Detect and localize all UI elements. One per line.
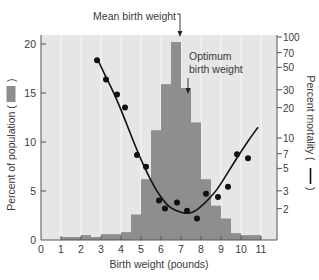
x-tick-label: 6 (158, 243, 164, 255)
mortality-point (94, 57, 100, 63)
x-tick-label: 3 (98, 243, 104, 255)
y-tick-label: 15 (24, 87, 36, 99)
mortality-point (215, 194, 221, 200)
x-tick-label: 7 (178, 243, 184, 255)
x-tick-label: 0 (38, 243, 44, 255)
mortality-point (122, 105, 128, 111)
y-tick-label: 10 (24, 136, 36, 148)
histogram-bar (161, 84, 171, 240)
y2-tick-label: 3 (283, 186, 289, 197)
y2-tick-label: 20 (283, 103, 295, 114)
mortality-point (203, 191, 209, 197)
mortality-point (225, 184, 231, 190)
x-tick-label: 10 (235, 243, 247, 255)
y2-tick-label: 100 (283, 32, 300, 43)
histogram-bar (131, 215, 141, 240)
mortality-point (156, 198, 162, 204)
x-tick-label: 5 (138, 243, 144, 255)
y2-tick-label: 50 (283, 62, 295, 73)
y-tick-label: 20 (24, 38, 36, 50)
mortality-point (134, 152, 140, 158)
mortality-point (245, 155, 251, 161)
histogram-bar (191, 122, 201, 240)
bar-legend-swatch-icon (7, 86, 16, 102)
mean-birth-weight-label: Mean birth weight (93, 10, 176, 22)
optimum-label-line1: Optimum (189, 50, 232, 62)
x-tick-label: 4 (118, 243, 124, 255)
x-tick-label: 2 (78, 243, 84, 255)
y-axis-label-close: ) (5, 79, 17, 83)
mortality-point (103, 76, 109, 82)
optimum-label-line2: birth weight (189, 63, 243, 75)
y2-axis-label-text: Percent mortality ( (305, 75, 317, 161)
histogram-bar (141, 179, 151, 240)
x-tick-label: 11 (256, 243, 267, 255)
mortality-point (174, 199, 180, 205)
x-tick-label: 1 (58, 243, 64, 255)
histogram-bar (221, 218, 231, 240)
y2-axis-label-close: ) (305, 187, 317, 191)
histogram-bar (211, 206, 221, 240)
y2-tick-label: 70 (283, 48, 295, 59)
mortality-point (162, 206, 168, 212)
mortality-point (194, 215, 200, 221)
histogram-bar (151, 130, 161, 240)
mortality-point (234, 151, 240, 157)
mortality-point (184, 208, 190, 214)
mortality-point (114, 91, 120, 97)
y2-tick-label: 30 (283, 85, 295, 96)
y2-tick-label: 5 (283, 163, 289, 174)
x-tick-label: 9 (218, 243, 224, 255)
x-axis-label: Birth weight (pounds) (109, 258, 208, 270)
mortality-point (143, 164, 149, 170)
histogram-bar (231, 233, 241, 240)
y2-tick-label: 7 (283, 149, 289, 160)
histogram-bar (201, 179, 211, 240)
mean-arrow-icon (177, 14, 180, 33)
histogram-bar (241, 235, 261, 240)
y-tick-label: 0 (30, 234, 36, 246)
y2-axis-label: Percent mortality ( ) (305, 75, 317, 190)
histogram-bar (181, 88, 191, 240)
y-axis-label: Percent of population ( ) (5, 79, 17, 211)
y-tick-label: 5 (30, 185, 36, 197)
birth-weight-chart: 012345678910110510152023571020305070100 … (0, 0, 319, 280)
x-tick-label: 8 (198, 243, 204, 255)
y2-tick-label: 10 (283, 133, 295, 144)
y-axis-label-text: Percent of population ( (5, 105, 17, 211)
histogram-bar (121, 232, 131, 240)
histogram-bar (101, 234, 121, 240)
histogram-bar (81, 235, 91, 240)
y2-tick-label: 2 (283, 204, 289, 215)
